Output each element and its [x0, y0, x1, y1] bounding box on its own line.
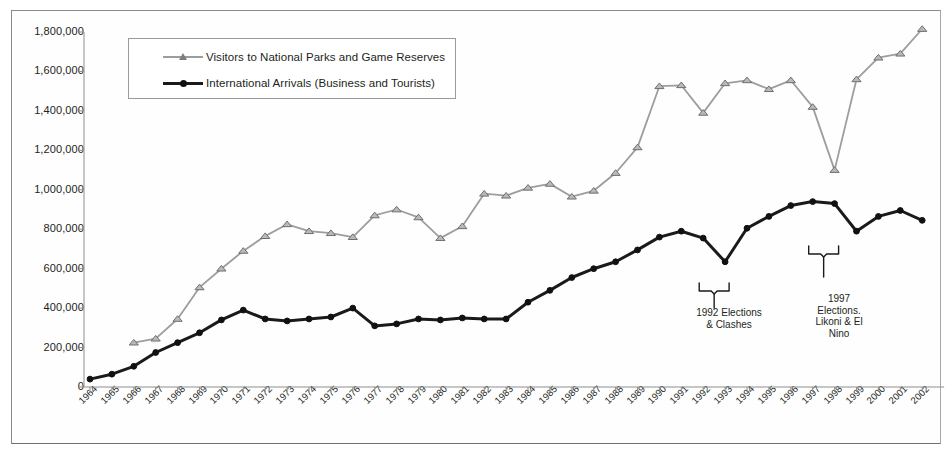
legend-label-arrivals: International Arrivals (Business and Tou…: [206, 77, 435, 89]
annotation-1992-elections: 1992 Elections & Clashes: [683, 307, 775, 330]
data-point-marker: [283, 221, 292, 227]
data-point-marker: [808, 104, 817, 110]
data-point-marker: [131, 363, 137, 369]
data-point-marker: [306, 316, 312, 322]
data-point-marker: [547, 287, 553, 293]
data-point-marker: [262, 316, 268, 322]
data-point-marker: [416, 316, 422, 322]
data-point-marker: [545, 181, 554, 187]
data-point-marker: [786, 77, 795, 83]
data-point-marker: [525, 299, 531, 305]
chart-legend: Visitors to National Parks and Game Rese…: [128, 38, 456, 99]
annotation-bracket-1992: [699, 283, 729, 308]
data-point-marker: [897, 208, 903, 214]
data-point-marker: [394, 321, 400, 327]
data-point-marker: [459, 315, 465, 321]
annotation-bracket-1997: [809, 246, 839, 277]
data-point-marker: [240, 307, 246, 313]
data-point-marker: [722, 259, 728, 265]
data-point-marker: [175, 340, 181, 346]
chart-page: 1,800,0001,600,0001,400,0001,200,0001,00…: [0, 0, 952, 457]
data-point-marker: [372, 323, 378, 329]
data-point-marker: [766, 214, 772, 220]
data-point-marker: [810, 199, 816, 205]
data-point-marker: [503, 316, 509, 322]
legend-item-arrivals: International Arrivals (Business and Tou…: [163, 76, 435, 90]
data-point-marker: [591, 266, 597, 272]
data-point-marker: [109, 371, 115, 377]
data-point-marker: [699, 110, 708, 116]
data-point-marker: [219, 317, 225, 323]
series-arrivals: [87, 199, 925, 382]
data-point-marker: [918, 26, 927, 32]
legend-swatch-black-circle-icon: [163, 77, 203, 89]
data-point-marker: [635, 247, 641, 253]
data-point-marker: [87, 376, 93, 382]
data-point-marker: [788, 203, 794, 209]
data-point-marker: [328, 314, 334, 320]
data-point-marker: [173, 316, 182, 322]
data-point-marker: [830, 167, 839, 173]
data-point-marker: [392, 206, 401, 212]
legend-item-visitors: Visitors to National Parks and Game Rese…: [163, 50, 445, 64]
data-point-marker: [350, 305, 356, 311]
legend-swatch-grey-triangle-icon: [163, 51, 203, 63]
data-point-marker: [438, 317, 444, 323]
data-point-marker: [633, 144, 642, 150]
data-point-marker: [700, 235, 706, 241]
data-point-marker: [744, 225, 750, 231]
legend-label-visitors: Visitors to National Parks and Game Rese…: [206, 51, 445, 63]
data-point-marker: [481, 316, 487, 322]
data-point-marker: [197, 330, 203, 336]
data-point-marker: [854, 228, 860, 234]
data-point-marker: [613, 259, 619, 265]
data-point-marker: [876, 214, 882, 220]
annotation-1997-elections: 1997 Elections. Likoni & El Nino: [805, 293, 873, 339]
data-point-marker: [657, 234, 663, 240]
data-point-marker: [678, 228, 684, 234]
data-point-marker: [458, 223, 467, 229]
data-point-marker: [832, 201, 838, 207]
data-point-marker: [153, 350, 159, 356]
series-line: [90, 202, 922, 380]
data-point-marker: [284, 318, 290, 324]
data-point-marker: [569, 275, 575, 281]
data-point-marker: [919, 217, 925, 223]
